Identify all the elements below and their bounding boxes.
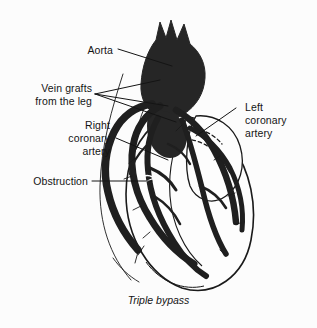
label-obstruction: Obstruction: [8, 175, 88, 189]
label-left-coronary-line1: Left: [245, 101, 315, 115]
figure-caption: Triple bypass: [0, 294, 317, 306]
label-right-coronary-line2: coronary: [26, 132, 110, 146]
label-right-coronary-line1: Right: [26, 119, 110, 133]
label-aorta: Aorta: [28, 44, 113, 58]
label-vein-grafts-line1: Vein grafts: [10, 82, 92, 96]
label-left-coronary-line2: coronary: [245, 114, 315, 128]
label-right-coronary-line3: artery: [26, 145, 110, 159]
label-vein-grafts-line2: from the leg: [10, 95, 92, 109]
label-left-coronary-line3: artery: [245, 127, 315, 141]
